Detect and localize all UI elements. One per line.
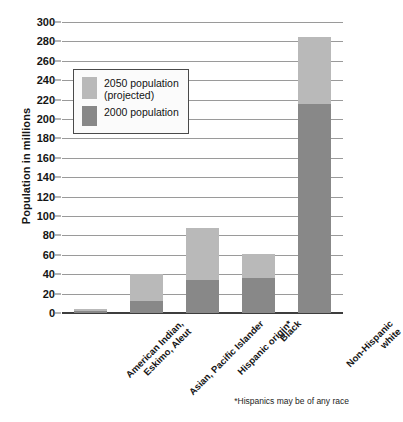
bar-segment-projected[interactable] [186,228,219,280]
y-tick-label-40: 40 [43,268,55,280]
x-axis-label: Non-Hispanicwhite [344,318,403,377]
legend-swatch-current-icon [82,106,97,126]
legend-item-projected: 2050 population (projected) [82,77,179,101]
tick-dash-140 [55,177,61,178]
gridline-300 [62,22,343,23]
legend-label-current: 2000 population [104,106,179,119]
chart-legend: 2050 population (projected) 2000 populat… [73,69,189,134]
y-tick-label-140: 140 [37,171,55,183]
tick-dash-280 [55,41,61,42]
bar-segment-current[interactable] [130,301,163,313]
y-tick-label-60: 60 [43,249,55,261]
tick-dash-20 [55,293,61,294]
bar-segment-projected[interactable] [130,274,163,301]
bar-segment-current[interactable] [298,104,331,313]
tick-dash-260 [55,60,61,61]
y-tick-label-280: 280 [37,35,55,47]
y-tick-label-20: 20 [43,288,55,300]
tick-dash-0 [55,313,61,314]
tick-dash-160 [55,157,61,158]
plot-area: 0204060801001201401601802002202402602803… [62,22,343,313]
bar-segment-current[interactable] [74,311,107,313]
tick-dash-60 [55,254,61,255]
y-tick-label-100: 100 [37,210,55,222]
legend-item-current: 2000 population [82,106,179,126]
chart-footnote: *Hispanics may be of any race [234,396,349,406]
bar-segment-projected[interactable] [298,37,331,105]
tick-dash-220 [55,99,61,100]
bar-group[interactable] [298,37,331,313]
tick-dash-240 [55,80,61,81]
bar-group[interactable] [130,274,163,313]
tick-dash-100 [55,216,61,217]
bar-segment-projected[interactable] [242,254,275,278]
tick-dash-200 [55,119,61,120]
y-tick-label-80: 80 [43,229,55,241]
bar-group[interactable] [186,228,219,313]
y-tick-label-240: 240 [37,74,55,86]
y-tick-label-160: 160 [37,152,55,164]
y-tick-label-300: 300 [37,16,55,28]
tick-dash-80 [55,235,61,236]
y-tick-label-200: 200 [37,113,55,125]
tick-dash-120 [55,196,61,197]
y-axis-title: Population in millions [20,76,32,256]
y-tick-label-120: 120 [37,191,55,203]
bar-group[interactable] [74,309,107,313]
y-tick-label-0: 0 [49,307,55,319]
bar-segment-current[interactable] [242,278,275,313]
y-tick-label-260: 260 [37,55,55,67]
tick-dash-180 [55,138,61,139]
bar-group[interactable] [242,254,275,313]
tick-dash-40 [55,274,61,275]
x-axis-label: American Indian,Eskimo, Aleut [124,318,194,388]
legend-label-projected: 2050 population (projected) [104,77,179,101]
tick-dash-300 [55,22,61,23]
bar-segment-current[interactable] [186,280,219,313]
legend-swatch-projected-icon [82,77,97,99]
y-tick-label-220: 220 [37,94,55,106]
y-tick-label-180: 180 [37,132,55,144]
